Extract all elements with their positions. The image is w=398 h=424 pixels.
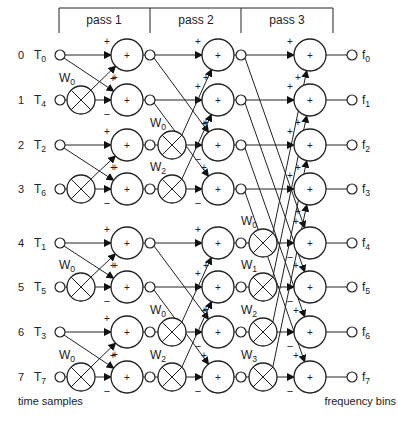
adder-plus-sign: + [307, 184, 313, 195]
adder-plus-sign: + [124, 372, 130, 383]
adder-plus-sign: + [307, 327, 313, 338]
plus-sign: + [287, 36, 293, 47]
adder-plus-sign: + [307, 372, 313, 383]
stage-node [145, 238, 155, 248]
output-label: f6 [362, 325, 370, 341]
output-node [347, 50, 357, 60]
adder-plus-sign: + [215, 282, 221, 293]
row-index-label: 2 [18, 139, 24, 151]
stage-node [236, 282, 246, 292]
row-index-label: 0 [18, 49, 24, 61]
twiddle-factor-label: W2 [150, 160, 166, 176]
output-node [347, 95, 357, 105]
stage-node [236, 95, 246, 105]
stage-node [145, 50, 155, 60]
plus-sign: + [110, 260, 116, 271]
twiddle-factor-label: W0 [150, 116, 166, 132]
multiplier [67, 273, 95, 301]
input-label: T7 [34, 370, 46, 386]
plus-sign: + [201, 118, 207, 129]
multiplier [67, 363, 95, 391]
multiplier [249, 318, 277, 346]
input-node [55, 238, 65, 248]
input-label: T6 [34, 182, 46, 198]
fft-flow-graph: pass 1 pass 2 pass 3 0T01T42T23T64T15T56… [0, 0, 398, 424]
input-label: T4 [34, 93, 46, 109]
twiddle-factor-label: W2 [150, 348, 166, 364]
plus-sign: + [203, 260, 209, 271]
stage-node [145, 282, 155, 292]
output-label: f1 [362, 93, 370, 109]
stage-node [145, 184, 155, 194]
plus-sign: + [201, 305, 207, 316]
input-label: T2 [34, 138, 46, 154]
multiplier [249, 273, 277, 301]
output-label: f3 [362, 182, 370, 198]
input-node [55, 184, 65, 194]
output-node [347, 140, 357, 150]
output-node [347, 184, 357, 194]
pass-header: pass 1 pass 2 pass 3 [59, 8, 333, 33]
stage-node [236, 372, 246, 382]
adder-plus-sign: + [215, 372, 221, 383]
minus-sign: − [104, 108, 110, 120]
multiplier [158, 318, 186, 346]
stage-node [236, 50, 246, 60]
row-index-label: 1 [18, 94, 24, 106]
adder-plus-sign: + [124, 238, 130, 249]
plus-sign: + [195, 268, 201, 279]
twiddle-factor-label: W0 [59, 348, 75, 364]
twiddle-factor-label: W2 [241, 303, 257, 319]
input-label: T1 [34, 236, 46, 252]
adder-plus-sign: + [307, 238, 313, 249]
output-node [347, 372, 357, 382]
input-node [55, 95, 65, 105]
plus-sign: + [195, 36, 201, 47]
pass-1-label: pass 1 [86, 13, 122, 27]
minus-sign: − [104, 295, 110, 307]
output-label: f0 [362, 48, 370, 64]
adder-plus-sign: + [307, 140, 313, 151]
twiddle-factor-label: W0 [59, 71, 75, 87]
plus-sign: + [295, 72, 301, 83]
stage-node [236, 184, 246, 194]
adder-plus-sign: + [307, 95, 313, 106]
adder-plus-sign: + [124, 327, 130, 338]
input-label: T3 [34, 325, 46, 341]
output-node [347, 238, 357, 248]
twiddle-factor-label: W0 [59, 258, 75, 274]
plus-sign: + [293, 216, 299, 227]
adder-plus-sign: + [124, 140, 130, 151]
plus-sign: + [104, 126, 110, 137]
adder-plus-sign: + [215, 184, 221, 195]
output-node [347, 282, 357, 292]
plus-sign: + [293, 350, 299, 361]
plus-sign: + [295, 162, 301, 173]
row-index-label: 7 [18, 371, 24, 383]
adder-plus-sign: + [124, 184, 130, 195]
input-node [55, 50, 65, 60]
adder-plus-sign: + [307, 282, 313, 293]
plus-sign: + [287, 81, 293, 92]
output-label: f4 [362, 236, 370, 252]
row-index-label: 5 [18, 281, 24, 293]
plus-sign: + [104, 313, 110, 324]
plus-sign: + [110, 162, 116, 173]
multiplier [158, 131, 186, 159]
row-index-label: 6 [18, 326, 24, 338]
output-label: f5 [362, 280, 370, 296]
multiplier [67, 86, 95, 114]
pass-2-label: pass 2 [178, 13, 214, 27]
plus-sign: + [201, 350, 207, 361]
output-label: f2 [362, 138, 370, 154]
stage-node [145, 327, 155, 337]
adder-plus-sign: + [124, 50, 130, 61]
twiddle-factor-label: W0 [150, 303, 166, 319]
plus-sign: + [110, 73, 116, 84]
twiddle-factor-label: W3 [241, 348, 257, 364]
adder-plus-sign: + [215, 50, 221, 61]
adder-plus-sign: + [124, 282, 130, 293]
stage-node [145, 95, 155, 105]
plus-sign: + [293, 305, 299, 316]
adder-plus-sign: + [215, 327, 221, 338]
